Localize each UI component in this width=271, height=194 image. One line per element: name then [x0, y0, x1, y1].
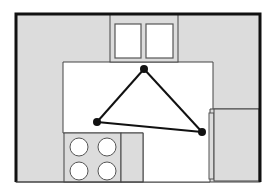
kitchen-diagram	[0, 0, 271, 194]
sink-basin-left	[115, 24, 141, 58]
burner-icon	[70, 162, 88, 180]
burner-icon	[98, 162, 116, 180]
refrigerator	[214, 109, 259, 181]
sink-point-icon	[140, 65, 148, 73]
burner-icon	[98, 138, 116, 156]
refrigerator-door	[209, 113, 214, 179]
sink-basin-right	[146, 24, 173, 58]
stove-point-icon	[93, 118, 101, 126]
burner-icon	[70, 138, 88, 156]
fridge-point-icon	[198, 128, 206, 136]
counter-beside-stove	[121, 133, 143, 182]
